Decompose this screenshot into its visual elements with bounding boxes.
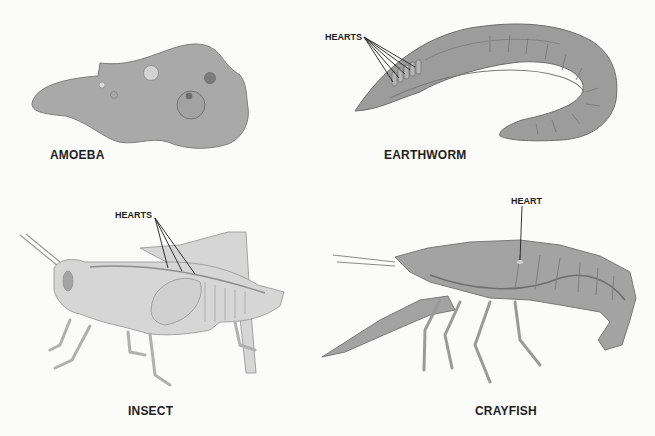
label-amoeba: AMOEBA [50,148,105,162]
earthworm-illustration [355,24,617,141]
nucleolus [186,93,193,100]
label-earthworm: EARTHWORM [384,148,466,162]
callout-insect-hearts: HEARTS [115,210,152,220]
diagram-canvas [0,0,655,436]
label-crayfish: CRAYFISH [475,404,537,418]
callout-crayfish-heart: HEART [511,196,542,206]
vacuole [144,66,159,81]
crayfish-heart [517,260,523,264]
vacuole [205,73,216,84]
label-insect: INSECT [128,404,173,418]
crayfish-illustration [322,206,636,382]
amoeba-illustration [32,44,248,148]
insect-illustration [20,218,284,385]
callout-earthworm-hearts: HEARTS [325,32,362,42]
